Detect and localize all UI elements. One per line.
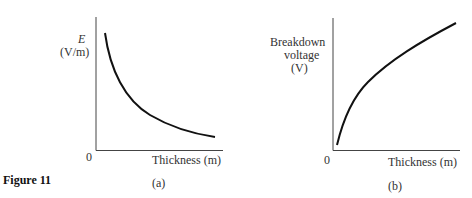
- panel-b-axes: [333, 18, 460, 151]
- panel-a-caption: (a): [152, 177, 165, 190]
- panel-a-ylabel-unit: (V/m): [60, 46, 89, 59]
- panel-b-curve: [337, 23, 456, 145]
- panel-a-curve: [105, 33, 215, 137]
- panel-b-xlabel: Thickness (m): [388, 156, 457, 169]
- panel-a-xlabel: Thickness (m): [152, 154, 221, 167]
- panel-a-axes: [96, 17, 223, 151]
- panel-a-origin-label: 0: [86, 151, 92, 164]
- panel-b-origin-label: 0: [324, 154, 330, 167]
- figure-label: Figure 11: [3, 174, 51, 187]
- panel-b-ylabel-line3: (V): [291, 62, 308, 75]
- panel-b-caption: (b): [388, 180, 402, 193]
